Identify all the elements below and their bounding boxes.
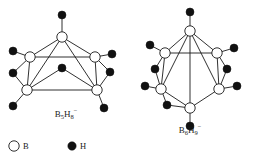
b-upper-right[interactable]	[212, 48, 222, 58]
formula-label-right: B6H9−	[179, 123, 202, 136]
b-upper-left[interactable]	[25, 52, 35, 62]
h-lower-right-terminal[interactable]	[100, 104, 108, 112]
bonds-layer	[13, 12, 237, 126]
h-upper-right-terminal[interactable]	[230, 44, 238, 52]
h-lower-right-terminal[interactable]	[233, 82, 241, 90]
bond-apex-lowerleft	[27, 37, 62, 90]
b-lower-left[interactable]	[22, 85, 32, 95]
b-upper-right[interactable]	[90, 52, 100, 62]
h-top-terminal[interactable]	[186, 8, 194, 16]
h-apex-terminal[interactable]	[58, 11, 66, 19]
formula-subscript-h-right: 9	[194, 129, 197, 136]
b-apex[interactable]	[57, 32, 67, 42]
h-bridge-right[interactable]	[106, 68, 114, 76]
legend-item-b: B	[9, 141, 29, 151]
b-lower-left[interactable]	[156, 84, 166, 94]
figure-root: B5H8−B6H9− BH	[0, 0, 255, 155]
formula-charge-left: −	[74, 107, 78, 114]
h-upper-left-terminal[interactable]	[9, 47, 17, 55]
bond-hbridge-center-lowerright	[62, 68, 97, 90]
h-upper-right-terminal[interactable]	[108, 50, 116, 58]
bond-top-lowerright	[190, 31, 219, 89]
h-bridge-left[interactable]	[9, 69, 17, 77]
h-upper-left-terminal[interactable]	[146, 41, 154, 49]
h-bridge-lower-left[interactable]	[163, 101, 171, 109]
b-top[interactable]	[185, 26, 195, 36]
b-upper-left[interactable]	[160, 48, 170, 58]
atoms-layer	[9, 8, 241, 130]
legend-hydrogen-icon	[68, 142, 76, 150]
bond-apex-lowerright	[62, 37, 97, 90]
h-lower-left-terminal[interactable]	[141, 82, 149, 90]
legend-boron-icon	[9, 141, 19, 151]
h-lower-left-terminal[interactable]	[9, 102, 17, 110]
bond-apex-upperleft	[30, 37, 62, 57]
h-bridge-upper-right[interactable]	[223, 65, 231, 73]
b-bottom[interactable]	[185, 103, 195, 113]
bond-apex-upperright	[62, 37, 95, 57]
legend-hydrogen-label: H	[80, 141, 86, 151]
b-lower-right[interactable]	[214, 84, 224, 94]
legend-item-h: H	[68, 141, 86, 151]
formula-charge-right: −	[198, 123, 202, 130]
legend-boron-label: B	[23, 141, 29, 151]
formula-labels-layer: B5H8−B6H9−	[55, 107, 202, 136]
h-bridge-upper-left[interactable]	[151, 65, 159, 73]
molecular-structures-diagram: B5H8−B6H9− BH	[0, 0, 255, 155]
structure-atoms-right	[141, 8, 241, 130]
h-bridge-center[interactable]	[58, 64, 66, 72]
bond-top-lowerleft	[161, 31, 190, 89]
b-lower-right[interactable]	[92, 85, 102, 95]
formula-subscript-h-left: 8	[70, 113, 73, 120]
legend: BH	[9, 141, 86, 151]
bond-hbridge-center-lowerleft	[27, 68, 62, 90]
formula-label-left: B5H8−	[55, 107, 78, 120]
